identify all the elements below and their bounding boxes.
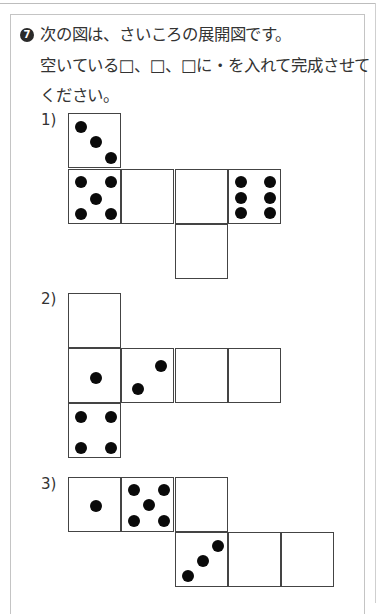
page-top-border xyxy=(0,3,375,4)
pip-dot-icon xyxy=(235,176,247,188)
pip-dot-icon xyxy=(264,207,276,219)
pip-dot-icon xyxy=(155,360,167,372)
pip-dot-icon xyxy=(105,442,117,454)
pip-dot-icon xyxy=(212,540,224,552)
pip-dot-icon xyxy=(264,192,276,204)
pip-dot-icon xyxy=(75,121,87,133)
net-label: 1) xyxy=(41,112,56,128)
die-face-3 xyxy=(175,532,228,587)
pip-dot-icon xyxy=(182,570,194,582)
question-number-badge: 7 xyxy=(20,28,34,42)
empty-die-face[interactable] xyxy=(121,169,174,224)
empty-die-face[interactable] xyxy=(175,348,228,403)
die-face-5 xyxy=(121,477,174,532)
pip-dot-icon xyxy=(105,208,117,220)
empty-die-face[interactable] xyxy=(175,224,228,279)
pip-dot-icon xyxy=(105,152,117,164)
pip-dot-icon xyxy=(235,192,247,204)
net-label: 2) xyxy=(41,291,56,307)
pip-dot-icon xyxy=(105,411,117,423)
empty-die-face[interactable] xyxy=(281,532,334,587)
pip-dot-icon xyxy=(235,207,247,219)
net-label: 3) xyxy=(41,476,56,492)
pip-dot-icon xyxy=(90,136,102,148)
empty-die-face[interactable] xyxy=(68,293,121,348)
empty-die-face[interactable] xyxy=(228,348,281,403)
pip-dot-icon xyxy=(143,499,155,511)
pip-dot-icon xyxy=(90,500,102,512)
die-face-1 xyxy=(68,477,121,532)
die-face-2 xyxy=(121,348,174,403)
pip-dot-icon xyxy=(105,176,117,188)
pip-dot-icon xyxy=(128,484,140,496)
pip-dot-icon xyxy=(75,176,87,188)
pip-dot-icon xyxy=(197,555,209,567)
die-face-6 xyxy=(228,169,281,224)
pip-dot-icon xyxy=(75,411,87,423)
pip-dot-icon xyxy=(90,193,102,205)
pip-dot-icon xyxy=(158,484,170,496)
empty-die-face[interactable] xyxy=(228,532,281,587)
die-face-5 xyxy=(68,169,121,224)
question-text-line-3: ください。 xyxy=(40,86,119,106)
die-face-3 xyxy=(68,113,121,168)
page-right-border xyxy=(375,3,376,603)
pip-dot-icon xyxy=(264,176,276,188)
empty-die-face[interactable] xyxy=(175,477,228,532)
question-text-line-1: 次の図は、さいころの展開図です。 xyxy=(40,25,291,45)
empty-die-face[interactable] xyxy=(175,169,228,224)
die-face-4 xyxy=(68,403,121,458)
question-text-line-2: 空いている□、□、□に・を入れて完成させて xyxy=(40,56,370,76)
pip-dot-icon xyxy=(90,372,102,384)
die-face-1 xyxy=(68,348,121,403)
pip-dot-icon xyxy=(75,442,87,454)
pip-dot-icon xyxy=(132,383,144,395)
pip-dot-icon xyxy=(158,515,170,527)
pip-dot-icon xyxy=(75,208,87,220)
pip-dot-icon xyxy=(128,515,140,527)
